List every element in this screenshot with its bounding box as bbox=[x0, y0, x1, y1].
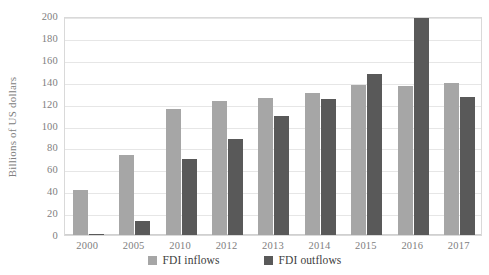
bar-fdi-inflows-2014[interactable] bbox=[305, 93, 320, 235]
y-axis-tick-label: 60 bbox=[18, 165, 58, 175]
x-axis-tick-label: 2000 bbox=[64, 240, 110, 251]
bar-fdi-outflows-2014[interactable] bbox=[321, 99, 336, 235]
bar-fdi-inflows-2005[interactable] bbox=[119, 155, 134, 235]
bar-group bbox=[437, 18, 483, 235]
legend-label: FDI inflows bbox=[163, 254, 220, 266]
y-axis-tick-label: 120 bbox=[18, 100, 58, 110]
bar-group bbox=[390, 18, 436, 235]
bar-fdi-outflows-2016[interactable] bbox=[414, 18, 429, 235]
y-axis-tick-label: 160 bbox=[18, 56, 58, 66]
y-axis-tick-label: 40 bbox=[18, 187, 58, 197]
y-axis-title: Billions of US dollars bbox=[6, 76, 18, 177]
bar-fdi-outflows-2005[interactable] bbox=[135, 221, 150, 235]
x-axis-tick-label: 2012 bbox=[203, 240, 249, 251]
chart-legend: FDI inflowsFDI outflows bbox=[0, 254, 489, 266]
bar-group bbox=[65, 18, 111, 235]
y-axis-tick-label: 200 bbox=[18, 12, 58, 22]
y-axis-tick-label: 80 bbox=[18, 143, 58, 153]
bar-group bbox=[158, 18, 204, 235]
bar-fdi-inflows-2000[interactable] bbox=[73, 190, 88, 235]
x-axis-tick-label: 2017 bbox=[436, 240, 482, 251]
bar-fdi-inflows-2015[interactable] bbox=[351, 85, 366, 235]
y-axis-tick-label: 100 bbox=[18, 122, 58, 132]
bar-group bbox=[204, 18, 250, 235]
bar-chart: Billions of US dollars 02040608010012014… bbox=[0, 0, 489, 275]
y-axis-tick-label: 140 bbox=[18, 78, 58, 88]
x-axis-tick-label: 2014 bbox=[296, 240, 342, 251]
legend-item-fdi-outflows[interactable]: FDI outflows bbox=[264, 254, 342, 266]
bar-group bbox=[344, 18, 390, 235]
bar-fdi-inflows-2012[interactable] bbox=[212, 101, 227, 235]
bar-fdi-inflows-2016[interactable] bbox=[398, 86, 413, 235]
x-axis-tick-label: 2016 bbox=[389, 240, 435, 251]
bar-fdi-inflows-2017[interactable] bbox=[444, 83, 459, 235]
bar-fdi-outflows-2010[interactable] bbox=[182, 159, 197, 235]
x-axis-tick-label: 2005 bbox=[110, 240, 156, 251]
bar-group bbox=[251, 18, 297, 235]
bar-fdi-inflows-2010[interactable] bbox=[166, 109, 181, 235]
bar-group bbox=[111, 18, 157, 235]
bar-fdi-outflows-2012[interactable] bbox=[228, 139, 243, 235]
x-axis-tick-label: 2013 bbox=[250, 240, 296, 251]
legend-swatch-icon bbox=[264, 256, 273, 265]
y-axis-tick-label: 20 bbox=[18, 209, 58, 219]
legend-item-fdi-inflows[interactable]: FDI inflows bbox=[148, 254, 220, 266]
legend-label: FDI outflows bbox=[279, 254, 342, 266]
plot-area bbox=[64, 17, 482, 236]
bar-fdi-outflows-2000[interactable] bbox=[89, 234, 104, 235]
bar-fdi-outflows-2017[interactable] bbox=[460, 97, 475, 235]
x-axis-tick-label: 2010 bbox=[157, 240, 203, 251]
bar-group bbox=[297, 18, 343, 235]
bars-layer bbox=[65, 18, 481, 235]
y-axis-tick-label: 180 bbox=[18, 34, 58, 44]
bar-fdi-inflows-2013[interactable] bbox=[258, 98, 273, 235]
bar-fdi-outflows-2013[interactable] bbox=[274, 116, 289, 235]
x-axis-tick-label: 2015 bbox=[343, 240, 389, 251]
legend-swatch-icon bbox=[148, 256, 157, 265]
y-axis-tick-label: 0 bbox=[18, 231, 58, 241]
bar-fdi-outflows-2015[interactable] bbox=[367, 74, 382, 235]
